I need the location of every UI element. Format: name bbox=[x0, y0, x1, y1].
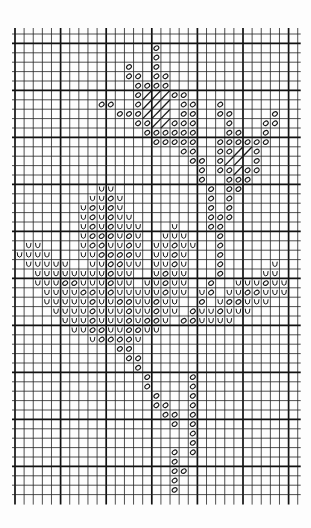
oval-stitch-icon bbox=[135, 92, 142, 98]
oval-stitch-icon bbox=[171, 120, 178, 126]
oval-stitch-icon bbox=[190, 374, 197, 380]
oval-stitch-icon bbox=[98, 101, 105, 107]
u-stitch-icon bbox=[90, 196, 95, 201]
u-stitch-icon bbox=[81, 234, 86, 239]
cross-stitch-chart: Cross-stitch pattern chart: flowers and … bbox=[0, 0, 311, 528]
oval-stitch-icon bbox=[217, 101, 224, 107]
u-stitch-icon bbox=[163, 318, 168, 323]
oval-stitch-icon bbox=[144, 83, 151, 89]
u-stitch-icon bbox=[54, 262, 59, 267]
oval-stitch-icon bbox=[107, 101, 114, 107]
u-stitch-icon bbox=[181, 281, 186, 286]
oval-stitch-icon bbox=[253, 139, 260, 145]
oval-stitch-icon bbox=[208, 214, 215, 220]
oval-stitch-icon bbox=[153, 130, 160, 136]
oval-stitch-icon bbox=[144, 318, 151, 324]
oval-stitch-icon bbox=[244, 167, 251, 173]
oval-stitch-icon bbox=[217, 242, 224, 248]
u-stitch-icon bbox=[99, 309, 104, 314]
oval-stitch-icon bbox=[226, 205, 233, 211]
u-stitch-icon bbox=[282, 281, 287, 286]
u-stitch-icon bbox=[118, 281, 123, 286]
u-stitch-icon bbox=[191, 243, 196, 248]
oval-stitch-icon bbox=[217, 233, 224, 239]
u-stitch-icon bbox=[273, 262, 278, 267]
oval-stitch-icon bbox=[117, 336, 124, 342]
oval-stitch-icon bbox=[80, 289, 87, 295]
oval-stitch-icon bbox=[217, 167, 224, 173]
oval-stitch-icon bbox=[98, 336, 105, 342]
u-stitch-icon bbox=[118, 205, 123, 210]
u-stitch-icon bbox=[154, 281, 159, 286]
u-stitch-icon bbox=[154, 328, 159, 333]
oval-stitch-icon bbox=[135, 327, 142, 333]
u-stitch-icon bbox=[136, 252, 141, 257]
oval-stitch-icon bbox=[180, 130, 187, 136]
oval-stitch-icon bbox=[162, 271, 169, 277]
u-stitch-icon bbox=[118, 215, 123, 220]
oval-stitch-icon bbox=[107, 233, 114, 239]
u-stitch-icon bbox=[118, 196, 123, 201]
u-stitch-icon bbox=[63, 271, 68, 276]
u-stitch-icon bbox=[136, 309, 141, 314]
u-stitch-icon bbox=[264, 271, 269, 276]
oval-stitch-icon bbox=[226, 167, 233, 173]
u-stitch-icon bbox=[45, 299, 50, 304]
oval-stitch-icon bbox=[162, 73, 169, 79]
oval-stitch-icon bbox=[190, 308, 197, 314]
u-stitch-icon bbox=[181, 234, 186, 239]
oval-stitch-icon bbox=[126, 242, 133, 248]
oval-stitch-icon bbox=[253, 289, 260, 295]
oval-stitch-icon bbox=[89, 308, 96, 314]
u-stitch-icon bbox=[99, 196, 104, 201]
oval-stitch-icon bbox=[226, 139, 233, 145]
u-stitch-icon bbox=[90, 281, 95, 286]
u-stitch-icon bbox=[127, 271, 132, 276]
oval-stitch-icon bbox=[244, 177, 251, 183]
oval-stitch-icon bbox=[135, 365, 142, 371]
oval-stitch-icon bbox=[272, 120, 279, 126]
oval-stitch-icon bbox=[162, 83, 169, 89]
oval-stitch-icon bbox=[180, 120, 187, 126]
oval-stitch-icon bbox=[135, 101, 142, 107]
oval-stitch-icon bbox=[98, 327, 105, 333]
oval-stitch-icon bbox=[180, 111, 187, 117]
u-stitch-icon bbox=[154, 262, 159, 267]
oval-stitch-icon bbox=[89, 214, 96, 220]
hatch-stitch-icon bbox=[234, 156, 243, 165]
oval-stitch-icon bbox=[153, 54, 160, 60]
u-stitch-icon bbox=[17, 252, 22, 257]
u-stitch-icon bbox=[36, 271, 41, 276]
u-stitch-icon bbox=[99, 224, 104, 229]
u-stitch-icon bbox=[136, 318, 141, 323]
oval-stitch-icon bbox=[253, 158, 260, 164]
oval-stitch-icon bbox=[190, 383, 197, 389]
oval-stitch-icon bbox=[144, 130, 151, 136]
oval-stitch-icon bbox=[217, 148, 224, 154]
oval-stitch-icon bbox=[217, 214, 224, 220]
oval-stitch-icon bbox=[126, 233, 133, 239]
oval-stitch-icon bbox=[162, 139, 169, 145]
oval-stitch-icon bbox=[107, 205, 114, 211]
u-stitch-icon bbox=[72, 290, 77, 295]
u-stitch-icon bbox=[172, 281, 177, 286]
oval-stitch-icon bbox=[171, 252, 178, 258]
u-stitch-icon bbox=[36, 252, 41, 257]
u-stitch-icon bbox=[227, 290, 232, 295]
oval-stitch-icon bbox=[263, 280, 270, 286]
oval-stitch-icon bbox=[153, 318, 160, 324]
u-stitch-icon bbox=[26, 252, 31, 257]
hatch-stitch-icon bbox=[243, 147, 252, 156]
u-stitch-icon bbox=[127, 281, 132, 286]
oval-stitch-icon bbox=[89, 205, 96, 211]
u-stitch-icon bbox=[145, 309, 150, 314]
u-stitch-icon bbox=[236, 309, 241, 314]
u-stitch-icon bbox=[54, 299, 59, 304]
u-stitch-icon bbox=[127, 262, 132, 267]
u-stitch-icon bbox=[282, 290, 287, 295]
u-stitch-icon bbox=[273, 271, 278, 276]
oval-stitch-icon bbox=[190, 158, 197, 164]
oval-stitch-icon bbox=[135, 83, 142, 89]
u-stitch-icon bbox=[99, 299, 104, 304]
u-stitch-icon bbox=[163, 243, 168, 248]
